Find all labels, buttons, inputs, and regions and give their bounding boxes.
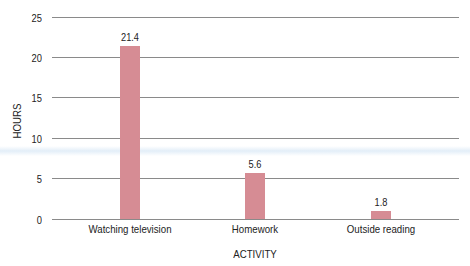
y-tick-20: 20 <box>22 52 42 64</box>
y-axis-label: HOURS <box>11 99 23 143</box>
y-tick-5: 5 <box>22 173 42 185</box>
gridline-10 <box>52 138 459 139</box>
value-label-homework: 5.6 <box>237 158 272 170</box>
y-tick-0: 0 <box>22 214 42 226</box>
bar-watching-television <box>120 46 140 219</box>
scan-artifact-band <box>0 146 470 156</box>
y-tick-15: 15 <box>22 92 42 104</box>
value-label-watching-television: 21.4 <box>112 31 147 43</box>
x-tick-outside-reading: Outside reading <box>319 223 442 235</box>
bar-homework <box>245 173 265 219</box>
gridline-15 <box>52 97 459 98</box>
value-label-outside-reading: 1.8 <box>363 196 398 208</box>
gridline-25 <box>52 17 459 18</box>
x-tick-watching-television: Watching television <box>68 223 191 235</box>
y-tick-25: 25 <box>22 12 42 24</box>
y-tick-10: 10 <box>22 133 42 145</box>
gridline-20 <box>52 57 459 58</box>
x-tick-homework: Homework <box>193 223 316 235</box>
gridline-0 <box>52 219 459 220</box>
bar-outside-reading <box>371 211 391 219</box>
x-axis-label: ACTIVITY <box>207 248 304 260</box>
